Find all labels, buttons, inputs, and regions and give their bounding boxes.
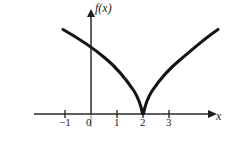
function-label: f(x) bbox=[95, 2, 112, 14]
graph-canvas bbox=[0, 0, 239, 154]
function-graph-figure: −1 0 1 2 3 x f(x) bbox=[0, 0, 239, 154]
y-axis-arrowhead bbox=[87, 9, 95, 17]
curve-left-branch bbox=[63, 30, 143, 114]
x-tick-label-one: 1 bbox=[114, 117, 120, 128]
x-tick-label-three: 3 bbox=[166, 117, 172, 128]
x-axis-label: x bbox=[216, 110, 221, 122]
x-tick-label-zero: 0 bbox=[86, 117, 92, 128]
x-tick-label-two: 2 bbox=[140, 117, 146, 128]
x-tick-label-minus-one: −1 bbox=[59, 117, 71, 128]
curve-right-branch bbox=[143, 30, 218, 114]
